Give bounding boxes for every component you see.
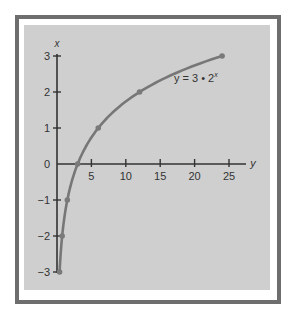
data-point [65, 197, 71, 203]
tick-label-x: −3 [37, 266, 50, 278]
data-point [137, 89, 143, 95]
tick-label-x: −2 [37, 230, 50, 242]
labels: 3210−1−2−3510152025xyy = 3 • 2x [37, 38, 257, 278]
axis-label-y: y [249, 157, 257, 169]
tick-label-x: 1 [44, 122, 50, 134]
data-point [75, 161, 81, 167]
tick-label-x: 2 [44, 86, 50, 98]
equation-label: y = 3 • 2x [174, 71, 218, 84]
data-point [57, 269, 63, 275]
data-point [95, 125, 101, 131]
tick-label-y: 10 [120, 170, 132, 182]
chart-svg: 3210−1−2−3510152025xyy = 3 • 2x [0, 0, 293, 316]
tick-label-y: 5 [88, 170, 94, 182]
data-point [59, 233, 65, 239]
data-point [219, 53, 225, 59]
axis-label-x: x [54, 38, 61, 49]
tick-label-y: 25 [223, 170, 235, 182]
tick-label-y: 15 [154, 170, 166, 182]
tick-label-y: 20 [188, 170, 200, 182]
tick-label-x: 3 [44, 50, 50, 62]
tick-label-x: −1 [37, 194, 50, 206]
tick-label-x: 0 [44, 158, 50, 170]
